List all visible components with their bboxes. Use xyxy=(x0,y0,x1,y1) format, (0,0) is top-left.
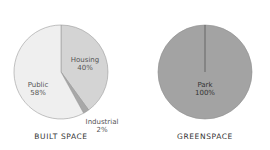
label-industrial-name: Industrial xyxy=(85,118,119,126)
label-housing-name: Housing xyxy=(70,56,100,64)
chart-title-built-space: BUILT SPACE xyxy=(26,132,96,141)
label-park-name: Park xyxy=(190,81,220,89)
chart-title-greenspace: GREENSPACE xyxy=(170,132,240,141)
charts-canvas xyxy=(0,0,270,150)
label-public: Public 58% xyxy=(23,81,53,97)
label-housing-value: 40% xyxy=(70,64,100,72)
label-park: Park 100% xyxy=(190,81,220,97)
label-public-name: Public xyxy=(23,81,53,89)
label-park-value: 100% xyxy=(190,89,220,97)
label-public-value: 58% xyxy=(23,89,53,97)
label-housing: Housing 40% xyxy=(70,56,100,72)
